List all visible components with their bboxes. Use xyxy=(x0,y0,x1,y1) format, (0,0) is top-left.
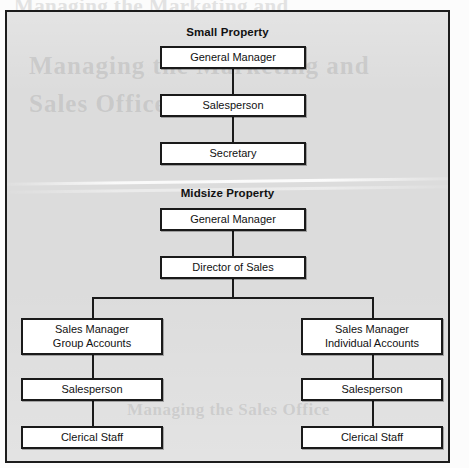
node-label-line2: Group Accounts xyxy=(49,337,135,351)
node-label-line1: Sales Manager xyxy=(331,323,413,337)
node-label: Salesperson xyxy=(337,383,406,397)
node-label: Clerical Staff xyxy=(57,431,127,445)
edge-right-manager-to-salesperson xyxy=(372,355,374,378)
node-left-salesperson: Salesperson xyxy=(21,378,163,401)
node-label: Director of Sales xyxy=(188,261,277,275)
node-midsize-general-manager: General Manager xyxy=(160,208,306,231)
edge-midsize-director-stem xyxy=(232,279,234,298)
node-midsize-director-of-sales: Director of Sales xyxy=(160,256,306,279)
edge-left-manager-to-salesperson xyxy=(92,355,94,378)
scan-streak xyxy=(5,177,450,186)
node-label: Clerical Staff xyxy=(337,431,407,445)
node-label: Secretary xyxy=(205,147,260,161)
node-label: Salesperson xyxy=(198,99,267,113)
node-right-clerical-staff: Clerical Staff xyxy=(301,426,443,449)
node-label: General Manager xyxy=(186,51,280,65)
node-right-salesperson: Salesperson xyxy=(301,378,443,401)
node-label-line2: Individual Accounts xyxy=(321,337,423,351)
edge-midsize-gm-to-director xyxy=(232,231,234,256)
node-small-secretary: Secretary xyxy=(160,142,306,165)
edge-left-salesperson-to-clerical xyxy=(92,401,94,426)
scanned-page: Managing the Marketing and Managing the … xyxy=(0,0,469,468)
node-label: General Manager xyxy=(186,213,280,227)
node-midsize-sales-manager-individual-accounts: Sales Manager Individual Accounts xyxy=(301,318,443,355)
section-heading-small-property: Small Property xyxy=(7,26,448,38)
edge-small-salesperson-to-secretary xyxy=(232,117,234,142)
watermark-text-line2: Sales Office xyxy=(29,90,167,118)
edge-right-salesperson-to-clerical xyxy=(372,401,374,426)
node-small-general-manager: General Manager xyxy=(160,46,306,69)
node-label-line1: Sales Manager xyxy=(51,323,133,337)
node-small-salesperson: Salesperson xyxy=(160,94,306,117)
edge-small-gm-to-salesperson xyxy=(232,69,234,94)
org-chart-panel: Managing the Marketing and Sales Office … xyxy=(5,10,450,463)
node-label: Salesperson xyxy=(57,383,126,397)
edge-midsize-bus-to-left-manager xyxy=(92,297,94,318)
section-heading-midsize-property: Midsize Property xyxy=(7,187,448,199)
watermark-text-line3: Managing the Sales Office xyxy=(127,400,330,420)
edge-midsize-branch-bus xyxy=(92,297,374,299)
node-left-clerical-staff: Clerical Staff xyxy=(21,426,163,449)
edge-midsize-bus-to-right-manager xyxy=(372,297,374,318)
node-midsize-sales-manager-group-accounts: Sales Manager Group Accounts xyxy=(21,318,163,355)
